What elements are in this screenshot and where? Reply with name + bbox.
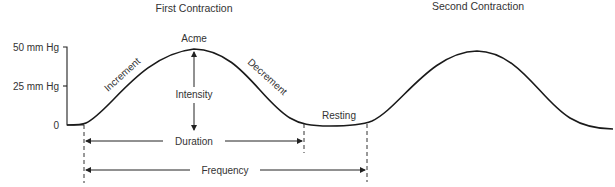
label-intensity: Intensity — [175, 89, 212, 100]
label-decrement: Decrement — [246, 56, 290, 97]
label-frequency: Frequency — [201, 165, 248, 176]
label-acme: Acme — [181, 33, 207, 44]
tick-25: 25 mm Hg — [13, 81, 59, 92]
title-first-contraction: First Contraction — [155, 2, 232, 14]
label-duration: Duration — [175, 136, 213, 147]
frequency-measure: Frequency — [86, 165, 365, 176]
label-increment: Increment — [102, 55, 143, 93]
duration-measure: Duration — [86, 136, 302, 147]
uterine-contraction-diagram: First Contraction Second Contraction 50 … — [0, 0, 615, 187]
y-axis: 50 mm Hg 25 mm Hg 0 — [13, 42, 84, 131]
label-resting: Resting — [322, 110, 356, 121]
tick-0: 0 — [53, 120, 59, 131]
title-second-contraction: Second Contraction — [432, 0, 524, 12]
tick-50: 50 mm Hg — [13, 42, 59, 53]
